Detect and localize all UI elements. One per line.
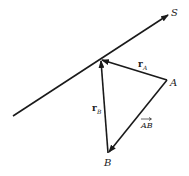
point-a-label: A [169, 77, 177, 88]
svg-text:A: A [142, 64, 148, 71]
vector-ab [109, 80, 167, 152]
svg-text:B: B [96, 108, 102, 115]
svg-text:AB: AB [140, 121, 153, 130]
line-s-label: S [171, 7, 178, 18]
vector-ra-label: r A [138, 59, 148, 71]
vector-rb-label: r B [92, 103, 102, 115]
point-b-label: B [103, 157, 111, 168]
vector-ra [102, 60, 167, 80]
vector-rb [101, 61, 108, 153]
vector-diagram: S A B r A r B AB [0, 0, 189, 176]
vector-ab-label: AB [140, 118, 153, 131]
